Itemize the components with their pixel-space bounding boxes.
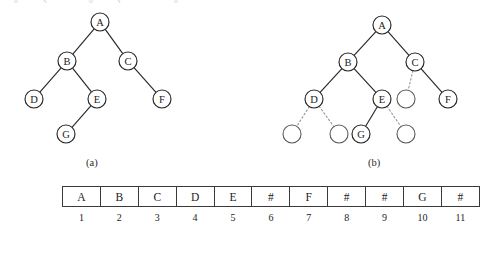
tree-a-nodes: ABCDEFG — [25, 13, 171, 143]
tree-a-node-label-C: C — [124, 56, 131, 67]
tree-a-edge-C-F — [134, 68, 156, 93]
tree-b-node-circle-bN4 — [397, 125, 415, 143]
tree-a-node-C-C: C — [119, 52, 137, 70]
tree-b-edge-bB-bD — [320, 69, 342, 93]
tree-a-node-G-G: G — [57, 125, 75, 143]
array-table: ABCDE#F##G# 1234567891011 — [62, 186, 480, 228]
tree-b-edge-bB-bE — [354, 69, 376, 93]
tree-b-node-circle-bN2 — [283, 125, 301, 143]
tree-b-node-label-bC: C — [411, 57, 418, 68]
tree-b-edge-bE-bN4 — [387, 106, 401, 126]
array-index-1: 1 — [63, 207, 101, 229]
array-cell-3: C — [138, 187, 176, 207]
array-values-row: ABCDE#F##G# — [63, 187, 480, 207]
array-index-6: 6 — [252, 207, 290, 229]
tree-a-node-label-E: E — [94, 94, 100, 105]
tree-a-edges — [40, 29, 156, 127]
tree-b-node-label-bD: D — [310, 94, 318, 105]
caption-panel-b: (b) — [368, 157, 380, 168]
array-index-2: 2 — [100, 207, 138, 229]
tree-a-node-B-B: B — [58, 52, 76, 70]
array-cell-2: B — [100, 187, 138, 207]
array-cell-7: F — [290, 187, 328, 207]
caption-panel-a: (a) — [86, 157, 98, 168]
tree-b-node-empty-bN4 — [397, 125, 415, 143]
array-cell-10: G — [404, 187, 442, 207]
tree-b-edge-bD-bN2 — [297, 107, 309, 127]
tree-a-node-E-E: E — [88, 90, 106, 108]
tree-b-edges — [297, 32, 442, 127]
tree-b-node-label-bG: G — [357, 129, 365, 140]
tree-a-edge-A-C — [105, 29, 123, 53]
tree-a-node-label-B: B — [63, 56, 70, 67]
array-index-5: 5 — [214, 207, 252, 229]
tree-a-node-F-F: F — [153, 90, 171, 108]
tree-b-edge-bE-bG — [366, 107, 378, 127]
array-cell-9: # — [366, 187, 404, 207]
array-cell-6: # — [252, 187, 290, 207]
tree-a-edge-E-G — [72, 106, 91, 128]
tree-a-edge-B-D — [40, 68, 61, 92]
tree-a-node-label-G: G — [62, 129, 70, 140]
tree-b-node-F-bF: F — [439, 90, 457, 108]
array-cell-11: # — [441, 187, 479, 207]
array-index-3: 3 — [138, 207, 176, 229]
array-cell-1: A — [63, 187, 101, 207]
tree-diagrams-canvas: ABCDEFG ABCDEFG — [0, 0, 481, 180]
tree-b-node-circle-bN3 — [330, 125, 348, 143]
tree-a-node-label-A: A — [96, 17, 104, 28]
tree-a-node-D-D: D — [25, 90, 43, 108]
array-representation-panel: 数组下标 ABCDE#F##G# 1234567891011 (c) — [0, 186, 481, 262]
tree-b-node-D-bD: D — [305, 90, 323, 108]
tree-a-edge-B-E — [73, 68, 92, 92]
tree-a-node-label-D: D — [30, 94, 38, 105]
array-index-4: 4 — [176, 207, 214, 229]
tree-b-edge-bD-bN3 — [319, 106, 334, 126]
tree-b-node-A-bA: A — [373, 16, 391, 34]
tree-a-edge-A-B — [73, 29, 94, 54]
tree-b-node-label-bB: B — [344, 57, 351, 68]
array-cell-5: E — [214, 187, 252, 207]
tree-b-node-circle-bN1 — [397, 90, 415, 108]
binary-tree-figure: ABCDEFG ABCDEFG (a) (b) 数组下标 ABCDE#F##G#… — [0, 0, 481, 262]
tree-a-node-label-F: F — [159, 94, 165, 105]
tree-b-node-label-bF: F — [445, 94, 451, 105]
tree-a-node-A-A: A — [91, 13, 109, 31]
array-index-11: 11 — [441, 207, 479, 229]
array-index-7: 7 — [290, 207, 328, 229]
tree-b-node-label-bE: E — [379, 94, 385, 105]
tree-b-edge-bA-bB — [354, 32, 376, 56]
array-index-9: 9 — [366, 207, 404, 229]
tree-b-node-label-bA: A — [378, 20, 386, 31]
array-indices-row: 1234567891011 — [63, 207, 480, 229]
tree-b-edge-bA-bC — [388, 32, 409, 56]
tree-b-edge-bC-bN1 — [408, 71, 413, 91]
array-cell-4: D — [176, 187, 214, 207]
tree-b-node-E-bE: E — [373, 90, 391, 108]
tree-b-node-G-bG: G — [352, 125, 370, 143]
array-index-8: 8 — [328, 207, 366, 229]
tree-b-node-C-bC: C — [406, 53, 424, 71]
tree-b-node-empty-bN1 — [397, 90, 415, 108]
tree-b-node-B-bB: B — [339, 53, 357, 71]
tree-b-node-empty-bN2 — [283, 125, 301, 143]
tree-b-edge-bC-bF — [421, 69, 442, 93]
array-index-10: 10 — [404, 207, 442, 229]
array-cell-8: # — [328, 187, 366, 207]
tree-b-node-empty-bN3 — [330, 125, 348, 143]
